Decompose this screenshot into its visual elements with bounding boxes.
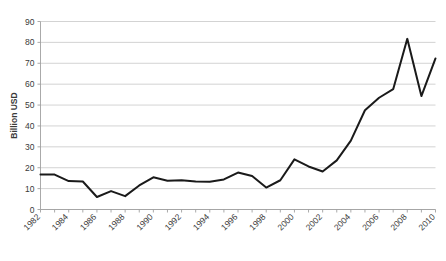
y-tick-label: 30	[25, 142, 35, 152]
x-tick-label: 1984	[50, 212, 71, 233]
x-tick-label: 1982	[21, 212, 42, 233]
x-tick-label: 1988	[106, 212, 127, 233]
x-tick-label: 2002	[304, 212, 325, 233]
line-chart: 0102030405060708090 19821984198619881990…	[0, 0, 446, 261]
y-tick-label: 90	[25, 17, 35, 27]
x-tick-label: 2000	[275, 212, 296, 233]
series-line-billion-usd	[41, 39, 436, 197]
x-tick-label: 2008	[388, 212, 409, 233]
y-axis-tick-labels: 0102030405060708090	[25, 17, 35, 215]
y-axis-title: Billion USD	[9, 92, 19, 138]
x-tick-label: 1994	[191, 212, 212, 233]
x-tick-label: 1992	[163, 212, 184, 233]
chart-container: 0102030405060708090 19821984198619881990…	[0, 0, 446, 261]
data-series-line	[41, 39, 436, 197]
x-tick-label: 1998	[247, 212, 268, 233]
y-tick-label: 80	[25, 37, 35, 47]
y-axis-title-text: Billion USD	[9, 92, 19, 138]
y-tick-label: 70	[25, 58, 35, 68]
y-tick-label: 20	[25, 163, 35, 173]
y-tick-label: 10	[25, 184, 35, 194]
x-tick-label: 2004	[332, 212, 353, 233]
x-tick-label: 2006	[360, 212, 381, 233]
x-tick-label: 1996	[219, 212, 240, 233]
y-axis	[38, 22, 41, 210]
y-tick-label: 50	[25, 100, 35, 110]
x-axis	[41, 210, 436, 213]
grid-lines	[41, 22, 436, 210]
y-tick-label: 40	[25, 121, 35, 131]
x-axis-tick-labels: 1982198419861988199019921994199619982000…	[21, 212, 437, 233]
x-tick-label: 1986	[78, 212, 99, 233]
x-tick-label: 2010	[416, 212, 437, 233]
x-tick-label: 1990	[134, 212, 155, 233]
y-tick-label: 60	[25, 79, 35, 89]
